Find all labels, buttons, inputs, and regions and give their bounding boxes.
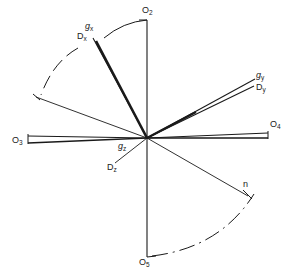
label-o5-base: O <box>139 257 146 267</box>
vector-gy-dy-root <box>147 112 196 138</box>
label-dx: Dx <box>77 32 87 41</box>
ray-upper-left-tick <box>33 94 40 100</box>
label-o5: O5 <box>139 258 150 267</box>
label-gz-sub: z <box>123 145 126 152</box>
arc-lower-right-dashdot <box>152 194 254 256</box>
label-o3-sub: 3 <box>19 139 23 146</box>
label-o3-base: O <box>12 135 19 145</box>
figure-canvas: O2 gx Dx gy Dy O4 O3 gz Dz n O5 <box>0 0 296 279</box>
axis-line-o3-lower <box>28 138 147 143</box>
label-dx-sub: x <box>84 35 87 42</box>
vector-dx-line <box>93 38 147 138</box>
label-gz: gz <box>118 142 126 151</box>
label-n-base: n <box>243 179 248 189</box>
label-o5-sub: 5 <box>146 261 150 268</box>
ray-lower-right-n-tick <box>243 190 252 199</box>
label-dz-base: D <box>107 162 114 172</box>
label-o3: O3 <box>12 136 23 145</box>
arc-top-solid <box>104 20 147 38</box>
label-o4-base: O <box>270 119 277 129</box>
ray-upper-left <box>36 97 147 138</box>
arc-upper-left-dashed <box>41 48 78 95</box>
label-o2: O2 <box>142 6 153 15</box>
label-o4-sub: 4 <box>277 123 281 130</box>
label-gx: gx <box>85 22 93 31</box>
label-gy-sub: y <box>261 74 264 81</box>
label-dy: Dy <box>256 83 266 92</box>
label-dx-base: D <box>77 31 84 41</box>
label-gx-sub: x <box>90 25 93 32</box>
ray-lower-right-n <box>147 138 248 196</box>
label-o4: O4 <box>270 120 281 129</box>
label-gy: gy <box>256 71 264 80</box>
label-o2-sub: 2 <box>149 9 153 16</box>
diagram-svg <box>0 0 296 279</box>
label-o2-base: O <box>142 5 149 15</box>
axis-line-o3-upper <box>28 136 147 138</box>
label-dz: Dz <box>107 163 117 172</box>
label-dy-sub: y <box>263 86 266 93</box>
label-n: n <box>243 180 248 189</box>
label-dz-sub: z <box>114 166 117 173</box>
label-dy-base: D <box>256 82 263 92</box>
